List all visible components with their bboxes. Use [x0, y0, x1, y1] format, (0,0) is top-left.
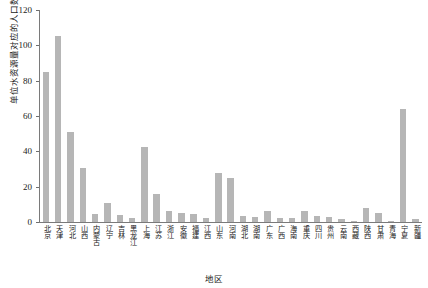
x-tick-label-text: 山西	[79, 225, 87, 239]
x-tick-label: 四川	[311, 225, 323, 243]
bar-slot	[151, 10, 163, 222]
bar	[117, 215, 123, 222]
bar	[289, 218, 295, 222]
bar	[166, 211, 172, 222]
bar-slot	[311, 10, 323, 222]
x-tick-label: 重庆	[299, 225, 311, 243]
x-tick-label-text: 海南	[289, 225, 297, 239]
bar-slot	[114, 10, 126, 222]
bar	[153, 194, 159, 222]
x-tick-label-text: 四川	[313, 225, 321, 239]
bar	[203, 218, 209, 222]
x-tick-label: 河北	[65, 225, 77, 243]
x-tick-label: 河南	[225, 225, 237, 243]
bar-slot	[139, 10, 151, 222]
x-tick-label: 宁夏	[397, 225, 409, 243]
x-tick-label-text: 安徽	[178, 225, 186, 239]
x-tick-label-text: 广东	[264, 225, 272, 239]
x-tick-label-text: 河北	[67, 225, 75, 239]
bar-chart: 单位水资源量对应的人口数量(人/万m³) 020406080100120 北京天…	[0, 0, 428, 288]
x-axis-title: 地区	[0, 272, 428, 284]
x-tick-label-text: 黑龙江	[129, 225, 137, 246]
bar-slot	[373, 10, 385, 222]
x-tick-label: 贵州	[323, 225, 335, 243]
x-tick-label: 北京	[40, 225, 52, 243]
bar-slot	[249, 10, 261, 222]
x-tick-label-text: 陕西	[363, 225, 371, 239]
bar-slot	[286, 10, 298, 222]
x-axis-line	[39, 222, 422, 223]
bar	[240, 216, 246, 222]
bar	[92, 214, 98, 222]
bar	[338, 219, 344, 222]
bar	[80, 168, 86, 222]
y-tick-label: 120	[19, 5, 33, 15]
x-tick-label-text: 天津	[55, 225, 63, 239]
bar-slot	[176, 10, 188, 222]
plot-area	[40, 10, 422, 222]
bar	[351, 221, 357, 222]
x-axis-tick-labels: 北京天津河北山西内蒙古辽宁吉林黑龙江上海江苏浙江安徽福建江西山东河南湖北湖南广东…	[40, 225, 422, 271]
x-tick-label: 湖北	[237, 225, 249, 243]
bar	[301, 211, 307, 222]
bar	[178, 213, 184, 222]
x-tick-label-text: 江苏	[153, 225, 161, 239]
x-tick-label: 山西	[77, 225, 89, 243]
x-tick-label: 山东	[213, 225, 225, 243]
bar-slot	[213, 10, 225, 222]
y-tick-label: 80	[23, 76, 32, 86]
x-tick-label-text: 重庆	[301, 225, 309, 239]
bar	[190, 214, 196, 222]
x-tick-label: 甘肃	[373, 225, 385, 243]
bar	[141, 147, 147, 222]
bar-slot	[262, 10, 274, 222]
bar-slot	[299, 10, 311, 222]
bar-slot	[348, 10, 360, 222]
bar-slot	[188, 10, 200, 222]
x-tick-label: 上海	[139, 225, 151, 243]
x-tick-label: 吉林	[114, 225, 126, 243]
bar	[314, 216, 320, 222]
x-tick-label-text: 北京	[42, 225, 50, 239]
bar	[375, 213, 381, 222]
bar-slot	[77, 10, 89, 222]
x-tick-label: 江苏	[151, 225, 163, 243]
bar	[55, 36, 61, 222]
x-tick-label-text: 江西	[203, 225, 211, 239]
bar-slot	[126, 10, 138, 222]
x-tick-label-text: 青海	[387, 225, 395, 239]
x-tick-label-text: 浙江	[166, 225, 174, 239]
x-tick-label: 内蒙古	[89, 225, 101, 250]
x-tick-label-text: 湖北	[240, 225, 248, 239]
x-tick-label-text: 新疆	[412, 225, 420, 239]
x-tick-label-text: 吉林	[116, 225, 124, 239]
x-tick-label: 天津	[52, 225, 64, 243]
bar-slot	[52, 10, 64, 222]
x-tick-label: 海南	[286, 225, 298, 243]
bar-slot	[89, 10, 101, 222]
x-tick-label-text: 西藏	[350, 225, 358, 239]
bar-slot	[274, 10, 286, 222]
bar	[400, 109, 406, 222]
bar-slot	[336, 10, 348, 222]
bar-slot	[65, 10, 77, 222]
x-tick-label: 新疆	[410, 225, 422, 243]
bar-slot	[225, 10, 237, 222]
bar-slot	[397, 10, 409, 222]
bar	[264, 211, 270, 222]
x-tick-label-text: 山东	[215, 225, 223, 239]
bar-slot	[237, 10, 249, 222]
bar	[412, 219, 418, 222]
bar	[388, 221, 394, 222]
x-tick-label-text: 内蒙古	[92, 225, 100, 246]
x-tick-label-text: 广西	[276, 225, 284, 239]
bar	[215, 173, 221, 222]
x-tick-label: 湖南	[249, 225, 261, 243]
bar-slot	[385, 10, 397, 222]
x-tick-label: 浙江	[163, 225, 175, 243]
x-tick-label-text: 甘肃	[375, 225, 383, 239]
x-tick-label-text: 辽宁	[104, 225, 112, 239]
bar	[129, 218, 135, 222]
bar	[227, 178, 233, 222]
y-tick-label: 40	[23, 146, 32, 156]
